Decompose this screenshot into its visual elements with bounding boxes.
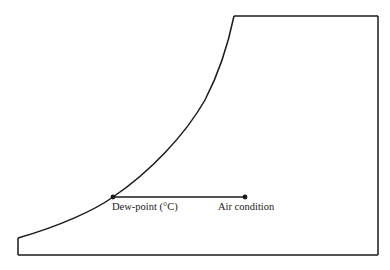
dew-point-marker: [111, 195, 116, 200]
air-condition-label: Air condition: [218, 202, 274, 213]
air-condition-marker: [243, 195, 248, 200]
dew-point-label: Dew-point (°C): [112, 202, 178, 213]
psychrometric-diagram: [0, 0, 390, 270]
